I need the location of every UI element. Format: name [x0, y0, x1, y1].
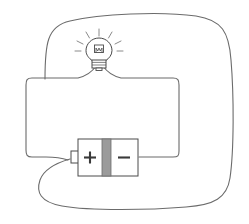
- battery-cell: + −: [71, 132, 138, 176]
- battery-divider-band: [102, 139, 111, 176]
- light-bulb: [75, 29, 123, 71]
- bulb-screw-base: [92, 60, 106, 68]
- outer-wire-loop: [39, 14, 234, 210]
- circuit-diagram-canvas: + −: [0, 0, 249, 224]
- bulb-contact-tip: [96, 68, 102, 71]
- battery-minus-label: −: [124, 132, 125, 133]
- battery-plus-label: +: [90, 132, 91, 133]
- circuit-diagram-svg: + −: [0, 0, 249, 224]
- outer-wire-path: [39, 14, 234, 210]
